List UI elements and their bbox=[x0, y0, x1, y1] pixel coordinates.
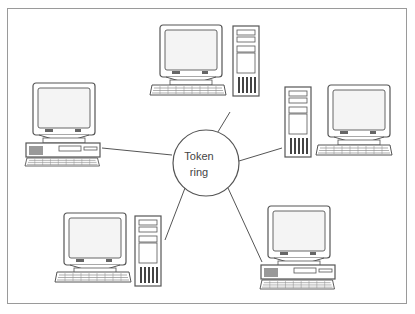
computer-bottom-left bbox=[55, 213, 161, 286]
link-bottom-right bbox=[228, 188, 262, 262]
computer-left bbox=[25, 83, 100, 166]
computer-bottom-right bbox=[260, 206, 335, 289]
computer-top bbox=[150, 25, 259, 96]
link-left bbox=[102, 148, 172, 155]
ring-label-line2: ring bbox=[166, 164, 232, 180]
computer-right bbox=[285, 85, 392, 157]
link-right bbox=[239, 148, 282, 161]
token-ring-label: Token ring bbox=[166, 148, 232, 180]
ring-label-line1: Token bbox=[166, 148, 232, 164]
link-bottom-left bbox=[165, 188, 185, 240]
